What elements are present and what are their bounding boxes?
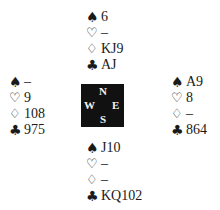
spade-icon: ♠ xyxy=(86,9,100,25)
north-hand: ♠ 6 ♡ – ♢ KJ9 ♣ AJ xyxy=(86,9,124,73)
east-diamonds-row: ♢ – xyxy=(171,106,207,122)
south-hand: ♠ J10 ♡ – ♢ – ♣ KQ102 xyxy=(86,140,142,204)
diamond-icon: ♢ xyxy=(171,106,185,122)
diamond-icon: ♢ xyxy=(86,172,100,188)
compass-west-label: W xyxy=(84,100,95,111)
east-spades-row: ♠ A9 xyxy=(171,74,207,90)
east-hearts-row: ♡ 8 xyxy=(171,90,207,106)
compass-south-label: S xyxy=(100,114,106,125)
north-hearts-row: ♡ – xyxy=(86,25,124,41)
club-icon: ♣ xyxy=(86,57,100,73)
west-diamonds: 108 xyxy=(24,106,45,122)
east-diamonds: – xyxy=(186,106,193,122)
spade-icon: ♠ xyxy=(171,74,185,90)
heart-icon: ♡ xyxy=(86,25,100,41)
west-diamonds-row: ♢ 108 xyxy=(9,106,45,122)
diamond-icon: ♢ xyxy=(86,41,100,57)
spade-icon: ♠ xyxy=(86,140,100,156)
heart-icon: ♡ xyxy=(9,90,23,106)
club-icon: ♣ xyxy=(9,122,23,138)
south-hearts: – xyxy=(101,156,108,172)
east-clubs-row: ♣ 864 xyxy=(171,122,207,138)
south-clubs: KQ102 xyxy=(101,188,142,204)
west-spades: – xyxy=(24,74,31,90)
south-spades: J10 xyxy=(101,140,120,156)
south-diamonds-row: ♢ – xyxy=(86,172,142,188)
compass-east-label: E xyxy=(112,100,119,111)
spade-icon: ♠ xyxy=(9,74,23,90)
west-hearts-row: ♡ 9 xyxy=(9,90,45,106)
east-clubs: 864 xyxy=(186,122,207,138)
compass-north-label: N xyxy=(99,86,107,97)
east-hand: ♠ A9 ♡ 8 ♢ – ♣ 864 xyxy=(171,74,207,138)
compass-square: N W E S xyxy=(81,84,124,127)
south-hearts-row: ♡ – xyxy=(86,156,142,172)
north-diamonds: KJ9 xyxy=(101,41,124,57)
heart-icon: ♡ xyxy=(86,156,100,172)
north-diamonds-row: ♢ KJ9 xyxy=(86,41,124,57)
club-icon: ♣ xyxy=(86,188,100,204)
club-icon: ♣ xyxy=(171,122,185,138)
north-spades: 6 xyxy=(101,9,108,25)
north-hearts: – xyxy=(101,25,108,41)
heart-icon: ♡ xyxy=(171,90,185,106)
west-hearts: 9 xyxy=(24,90,31,106)
north-clubs: AJ xyxy=(101,57,117,73)
east-hearts: 8 xyxy=(186,90,193,106)
south-spades-row: ♠ J10 xyxy=(86,140,142,156)
north-clubs-row: ♣ AJ xyxy=(86,57,124,73)
east-spades: A9 xyxy=(186,74,203,90)
north-spades-row: ♠ 6 xyxy=(86,9,124,25)
west-clubs: 975 xyxy=(24,122,45,138)
west-hand: ♠ – ♡ 9 ♢ 108 ♣ 975 xyxy=(9,74,45,138)
diamond-icon: ♢ xyxy=(9,106,23,122)
west-spades-row: ♠ – xyxy=(9,74,45,90)
west-clubs-row: ♣ 975 xyxy=(9,122,45,138)
south-diamonds: – xyxy=(101,172,108,188)
south-clubs-row: ♣ KQ102 xyxy=(86,188,142,204)
